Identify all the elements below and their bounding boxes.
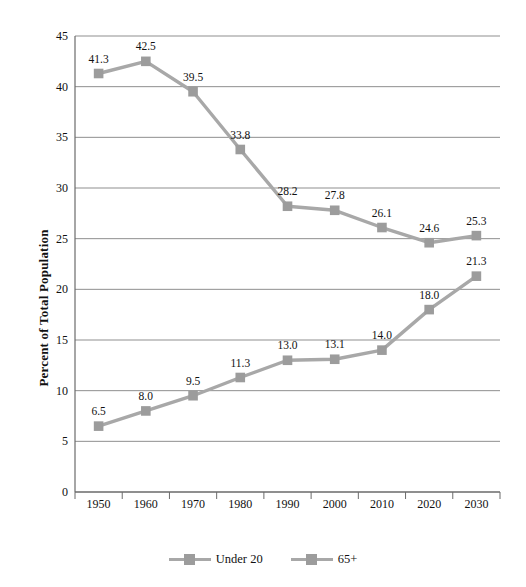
x-tick-label: 1990 [276, 497, 300, 512]
x-tick-label: 1950 [87, 497, 111, 512]
x-tick-label: 2020 [417, 497, 441, 512]
x-axis-tick-labels: 195019601970198019902000201020202030 [75, 497, 500, 517]
x-tick-label: 1960 [134, 497, 158, 512]
chart-legend: Under 2065+ [0, 552, 526, 567]
legend-entry[interactable]: Under 20 [169, 552, 263, 567]
legend-marker-icon [306, 554, 317, 565]
population-percent-line-chart: Percent of Total Population 051015202530… [0, 0, 526, 587]
legend-entry[interactable]: 65+ [291, 552, 358, 567]
x-tick-label: 1970 [181, 497, 205, 512]
legend-marker-icon [184, 554, 195, 565]
x-tick-label: 2010 [370, 497, 394, 512]
x-tick-label: 2030 [464, 497, 488, 512]
legend-label: Under 20 [216, 552, 263, 567]
x-tick-label: 2000 [323, 497, 347, 512]
legend-swatch-icon [291, 554, 333, 565]
legend-swatch-icon [169, 554, 211, 565]
x-tick-label: 1980 [228, 497, 252, 512]
legend-label: 65+ [338, 552, 358, 567]
